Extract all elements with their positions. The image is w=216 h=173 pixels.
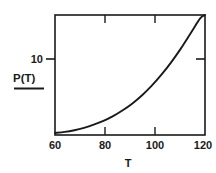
x-tick-label-0: 60 — [49, 139, 61, 151]
chart-figure: 60 80 100 120 10 P(T) T — [0, 0, 216, 173]
x-tick-label-1: 80 — [99, 139, 111, 151]
x-axis-label: T — [125, 157, 132, 169]
x-tick-label-2: 100 — [146, 139, 164, 151]
y-tick-label-0: 10 — [31, 53, 43, 65]
plot-frame — [55, 15, 205, 135]
chart-svg: 60 80 100 120 10 P(T) T — [0, 0, 216, 173]
x-tick-label-3: 120 — [194, 139, 212, 151]
y-axis-label: P(T) — [13, 72, 36, 84]
